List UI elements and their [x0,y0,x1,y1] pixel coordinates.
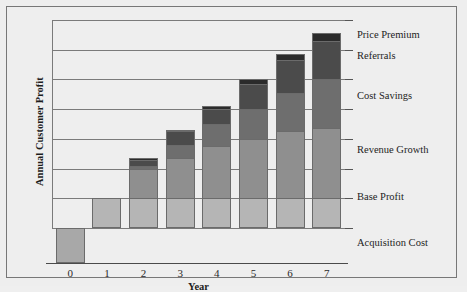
bar-stack [166,20,195,228]
x-axis-line [46,263,348,264]
series-label: Cost Savings [357,90,412,101]
bar-segment [239,109,268,139]
bar-segment [276,54,305,60]
bar-segment [166,145,195,158]
y-tick-mark [345,228,353,229]
bar-segment [312,41,341,80]
bar-segment [202,124,231,146]
bar-segment [312,33,341,40]
bar-segment [92,198,121,228]
y-tick-mark [345,109,353,110]
x-tick-label: 3 [165,267,195,279]
x-tick-label: 5 [238,267,268,279]
bar-segment [239,84,268,109]
bar-segment [276,198,305,228]
x-tick-label: 2 [129,267,159,279]
bar-segment [239,79,268,83]
bar-stack [239,20,268,228]
y-tick-mark [345,79,353,80]
y-axis-title: Annual Customer Profit [34,77,45,186]
bar-segment [202,109,231,124]
x-tick-label: 6 [275,267,305,279]
x-axis-title: Year [159,281,239,292]
zero-baseline [52,228,346,229]
plot-area [52,20,345,228]
bar-segment [276,131,305,198]
bar-segment [129,198,158,228]
x-tick-label: 0 [55,267,85,279]
bar-stack [312,20,341,228]
y-tick-mark [345,20,353,21]
bar-segment [166,130,195,131]
bar-segment [129,169,158,199]
x-tick-label: 1 [92,267,122,279]
bar-segment [166,131,195,144]
bar-segment [276,93,305,132]
bar-segment [312,79,341,128]
y-tick-mark [345,50,353,51]
x-tick-label: 7 [312,267,342,279]
bar-stack [276,20,305,228]
bar-segment [129,166,158,169]
bar-segment [166,198,195,228]
series-label: Referrals [357,50,395,61]
x-tick-label: 4 [202,267,232,279]
bar-stack [92,20,121,228]
bar-segment [129,160,158,166]
y-tick-mark [345,198,353,199]
series-label: Revenue Growth [357,144,428,155]
bar-segment-negative [56,228,85,263]
bar-segment [202,146,231,198]
bar-segment [239,139,268,198]
bar-segment [239,198,268,228]
bar-segment [202,198,231,228]
y-tick-mark [345,139,353,140]
bar-stack [202,20,231,228]
bar-segment [166,158,195,198]
series-label: Base Profit [357,191,404,202]
bar-segment [129,158,158,159]
bar-segment [276,60,305,93]
series-label: Acquisition Cost [357,237,428,248]
bar-segment [312,128,341,198]
y-tick-mark [345,169,353,170]
bar-segment [202,106,231,109]
bar-segment [312,198,341,228]
series-label: Price Premium [357,29,420,40]
bar-stack [129,20,158,228]
